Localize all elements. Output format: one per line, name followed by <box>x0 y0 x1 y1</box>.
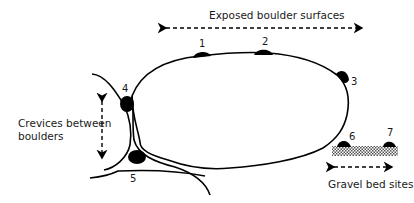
boulder-diagram: Exposed boulder surfaces Crevices betwee… <box>0 0 414 203</box>
site-marker-2 <box>254 50 273 55</box>
crevices-label-line1: Crevices between <box>18 117 111 129</box>
site-number-6: 6 <box>349 131 355 142</box>
crevices-label-line2: boulders <box>18 130 64 142</box>
main-boulder-outline <box>132 53 348 169</box>
site-number-1: 1 <box>199 38 205 49</box>
site-number-7: 7 <box>387 127 393 138</box>
site-marker-7 <box>383 142 396 147</box>
site-marker-5 <box>128 150 146 164</box>
gravel-bed-label: Gravel bed sites <box>328 178 413 190</box>
site-marker-4 <box>120 96 134 112</box>
crevice-right-wall <box>132 96 210 195</box>
site-number-4: 4 <box>122 83 128 94</box>
site-marker-3 <box>336 71 349 83</box>
gravel-bed <box>332 146 398 156</box>
exposed-surfaces-label: Exposed boulder surfaces <box>209 9 345 21</box>
site-marker-1 <box>193 52 211 58</box>
site-number-3: 3 <box>351 76 357 87</box>
site-number-5: 5 <box>130 173 136 184</box>
site-number-2: 2 <box>262 36 268 47</box>
